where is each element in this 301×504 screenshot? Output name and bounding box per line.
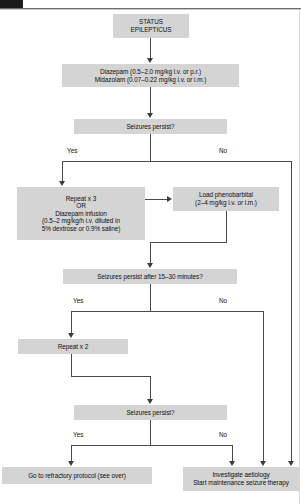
node-text-line: 5% dextrose or 0.9% saline)	[42, 225, 121, 233]
arrowhead-to-first-line-drugs	[147, 58, 153, 63]
node-first-line-drugs: Diazepam (0.5–2.0 mg/kg i.v. or p.r.) Mi…	[62, 64, 239, 87]
node-seizures-persist-1: Seizures persist?	[74, 119, 227, 134]
arrowhead-to-refractory-protocol	[68, 461, 74, 466]
node-text-line: Start maintenance seizure therapy	[193, 479, 289, 487]
connector-repeatx2-right	[71, 376, 151, 377]
node-text-line: (2–4 mg/kg i.v. or i.m.)	[195, 199, 257, 207]
node-status-epilepticus: STATUS EPILEPTICUS	[113, 14, 189, 38]
connector-decision3-stem	[150, 420, 151, 445]
node-investigate-aetiology: Investigate aetiology Start maintenance …	[183, 467, 299, 491]
connector-to-decision3	[150, 376, 151, 400]
arrowhead-to-load-phenobarbital	[167, 196, 172, 202]
connector-decision2-no-longdrop	[263, 311, 264, 462]
connector-drugs-to-decision1	[150, 87, 151, 114]
node-text-line: Go to refractory protocol (see over)	[28, 472, 126, 480]
arrowhead-to-repeat-x2	[68, 333, 74, 338]
node-text-line: Seizures persist?	[126, 123, 174, 131]
connector-to-decision2	[150, 242, 151, 264]
node-text-line: EPILEPTICUS	[130, 26, 171, 34]
node-text-line: Load phenobarbital	[199, 191, 253, 199]
node-text-line: Investigate aetiology	[212, 471, 269, 479]
branch-label-decision1-yes: Yes	[67, 147, 77, 154]
connector-decision1-stem	[150, 134, 151, 161]
connector-repeatx3-to-phenobarbital	[145, 199, 168, 200]
node-text-line: Midazolam (0.07–0.22 mg/kg i.v. or i.m.)	[95, 76, 207, 84]
node-text-line: Diazepam (0.5–2.0 mg/kg i.v. or p.r.)	[100, 68, 201, 76]
connector-phenobarbital-down	[226, 211, 227, 242]
node-seizures-persist-3: Seizures persist?	[74, 405, 227, 420]
node-repeat-x3: Repeat x 3 OR Diazepam infusion (0.5–2 m…	[17, 187, 145, 240]
arrowhead-to-repeat-x3	[59, 181, 65, 186]
node-load-phenobarbital: Load phenobarbital (2–4 mg/kg i.v. or i.…	[173, 187, 279, 211]
node-text-line: STATUS	[139, 18, 163, 26]
connector-phenobarbital-left	[150, 242, 227, 243]
connector-decision1-no-longdrop	[291, 161, 292, 462]
page-right-edge-rule	[299, 10, 300, 504]
arrowhead-to-decision3	[147, 399, 153, 404]
node-text-line: Diazepam infusion	[55, 210, 107, 218]
arrowhead-to-decision2	[147, 263, 153, 268]
node-seizures-persist-2: Seizures persist after 15–30 minutes?	[63, 269, 237, 284]
branch-label-decision3-no: No	[219, 431, 227, 438]
node-text-line: Seizures persist after 15–30 minutes?	[97, 273, 202, 281]
connector-decision2-split	[71, 311, 263, 312]
node-text-line: (0.5–2 mg/kg/h i.v. diluted in	[42, 217, 120, 225]
node-repeat-x2: Repeat x 2	[18, 339, 128, 354]
node-text-line: Repeat x 2	[58, 343, 88, 351]
arrowhead-decision2-no-to-investigate	[260, 461, 266, 466]
connector-repeatx2-down	[71, 354, 72, 376]
connector-decision3-no-drop	[232, 445, 233, 462]
node-text-line: Repeat x 3	[66, 195, 96, 203]
connector-decision1-split	[62, 161, 291, 162]
branch-label-decision2-no: No	[219, 297, 227, 304]
arrowhead-decision1-no-to-investigate	[288, 461, 294, 466]
connector-decision2-yes-drop	[71, 311, 72, 334]
connector-decision1-yes-drop	[62, 161, 63, 182]
arrowhead-decision3-no-to-investigate	[229, 461, 235, 466]
connector-decision3-split	[71, 445, 232, 446]
arrowhead-to-decision1	[147, 113, 153, 118]
node-text-line: OR	[76, 202, 86, 210]
connector-decision2-stem	[150, 284, 151, 311]
header-divider-shadow	[0, 9, 301, 10]
branch-label-decision2-yes: Yes	[73, 297, 83, 304]
connector-decision3-yes-drop	[71, 445, 72, 462]
branch-label-decision3-yes: Yes	[73, 431, 83, 438]
node-text-line: Seizures persist?	[126, 409, 174, 417]
node-refractory-protocol: Go to refractory protocol (see over)	[2, 467, 152, 484]
branch-label-decision1-no: No	[219, 147, 227, 154]
connector-status-to-drugs	[150, 38, 151, 59]
flowchart-page: STATUS EPILEPTICUS Diazepam (0.5–2.0 mg/…	[0, 0, 301, 504]
